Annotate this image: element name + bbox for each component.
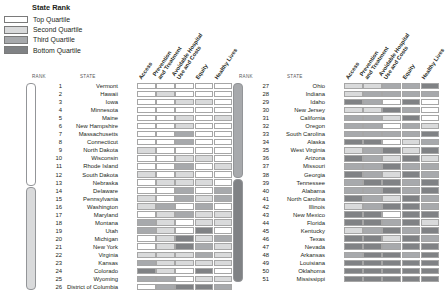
heatmap-cell — [195, 276, 214, 283]
heatmap-cell — [195, 91, 214, 98]
heatmap-cell — [175, 252, 194, 259]
heatmap-cell — [382, 91, 401, 98]
heatmap-cell — [402, 107, 421, 114]
legend-item: Second Quartile — [4, 25, 144, 35]
heatmap-cell — [195, 115, 214, 122]
legend-item: Third Quartile — [4, 35, 144, 45]
heatmap-cell-row — [137, 203, 232, 210]
heatmap-cell — [137, 107, 156, 114]
heatmap-cell — [402, 219, 421, 226]
heatmap-cell — [421, 179, 440, 186]
heatmap-cell — [363, 123, 382, 130]
heatmap-cell — [175, 99, 194, 106]
heatmap-cell — [344, 260, 363, 267]
heatmap-cell — [137, 91, 156, 98]
heatmap-cell-row — [137, 243, 232, 250]
state-name: New York — [52, 243, 118, 251]
heatmap-cell — [195, 227, 214, 234]
heatmap-cell — [214, 203, 233, 210]
heatmap-cell — [363, 179, 382, 186]
quartile-bracket — [233, 83, 243, 178]
dimension-header: Healthy Lives — [421, 48, 446, 81]
heatmap-cell — [344, 107, 363, 114]
heatmap-cell — [402, 155, 421, 162]
heatmap-cell — [137, 243, 156, 250]
heatmap-cell-row — [344, 195, 439, 202]
heatmap-cell — [382, 171, 401, 178]
heatmap-cell — [382, 139, 401, 146]
heatmap-cell — [156, 83, 175, 90]
state-name: South Carolina — [259, 130, 325, 138]
heatmap-cell — [402, 123, 421, 130]
heatmap-cell — [344, 203, 363, 210]
heatmap-cell — [156, 115, 175, 122]
heatmap-cell-row — [344, 131, 439, 138]
heatmap-cell — [363, 83, 382, 90]
heatmap-cell — [137, 276, 156, 283]
heatmap-cell-row — [344, 187, 439, 194]
heatmap-cell — [402, 163, 421, 170]
heatmap-cell — [421, 227, 440, 234]
state-name: Iowa — [52, 98, 118, 106]
heatmap-cell — [214, 252, 233, 259]
heatmap-cell — [156, 179, 175, 186]
heatmap-cell — [175, 260, 194, 267]
heatmap-cell — [214, 187, 233, 194]
state-name: Alaska — [259, 138, 325, 146]
heatmap-cell — [137, 83, 156, 90]
heatmap-cell — [344, 268, 363, 275]
heatmap-cell — [382, 107, 401, 114]
heatmap-cell — [402, 115, 421, 122]
state-column-header: STATE — [80, 74, 96, 79]
heatmap-cell — [421, 235, 440, 242]
heatmap-cell — [137, 155, 156, 162]
heatmap-cell — [137, 227, 156, 234]
legend-item-label: Top Quartile — [33, 16, 70, 23]
heatmap-cell — [156, 195, 175, 202]
heatmap-cell — [402, 131, 421, 138]
state-name: Maine — [52, 114, 118, 122]
heatmap-cell — [344, 155, 363, 162]
heatmap-cell — [137, 235, 156, 242]
heatmap-cell — [175, 179, 194, 186]
heatmap-cell — [402, 211, 421, 218]
heatmap-cell — [175, 91, 194, 98]
heatmap-cell — [382, 147, 401, 154]
heatmap-cell — [175, 139, 194, 146]
dimension-header-group: AccessPrevention and TreatmentAvoidable … — [345, 36, 441, 82]
state-name: Texas — [259, 235, 325, 243]
heatmap-cell — [195, 171, 214, 178]
heatmap-cell — [195, 260, 214, 267]
heatmap-cell — [421, 147, 440, 154]
heatmap-cell-row — [344, 83, 439, 90]
heatmap-cell — [214, 123, 233, 130]
heatmap-cell-row — [344, 179, 439, 186]
state-column-header: STATE — [287, 74, 303, 79]
state-name: Tennessee — [259, 179, 325, 187]
state-name: Idaho — [259, 98, 325, 106]
heatmap-cell — [175, 211, 194, 218]
heatmap-cell — [195, 179, 214, 186]
heatmap-cell-row — [344, 203, 439, 210]
quartile-bracket — [26, 187, 36, 290]
state-name: Indiana — [259, 90, 325, 98]
heatmap-cell — [137, 179, 156, 186]
heatmap-cell — [402, 139, 421, 146]
heatmap-cell-row — [137, 131, 232, 138]
heatmap-cell — [402, 195, 421, 202]
heatmap-cell — [195, 187, 214, 194]
heatmap-cell — [344, 115, 363, 122]
heatmap-cell — [214, 131, 233, 138]
heatmap-cell — [214, 276, 233, 283]
heatmap-cell — [382, 260, 401, 267]
state-name: Connecticut — [52, 138, 118, 146]
heatmap-cell — [402, 179, 421, 186]
heatmap-cell — [382, 123, 401, 130]
heatmap-cell-row — [137, 284, 232, 291]
heatmap-cell-row — [137, 163, 232, 170]
heatmap-cell — [382, 99, 401, 106]
heatmap-cell — [344, 235, 363, 242]
heatmap-cell — [195, 252, 214, 259]
heatmap-cell — [344, 179, 363, 186]
heatmap-cell — [137, 163, 156, 170]
